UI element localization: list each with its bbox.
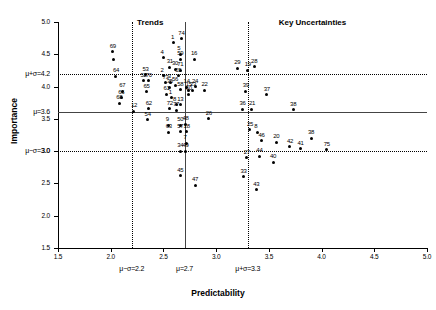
reference-line-label: μ−σ=2.2 (106, 265, 158, 272)
data-point (180, 37, 183, 40)
data-point-label: 49 (183, 142, 189, 148)
y-tick-mark (54, 119, 58, 120)
data-point-label: 35 (167, 78, 173, 84)
y-axis-title: Importance (9, 71, 19, 171)
data-point (244, 90, 247, 93)
data-point (207, 117, 210, 120)
data-point-label: 45 (177, 167, 183, 173)
x-tick-label: 4.5 (361, 253, 387, 260)
data-point (168, 107, 171, 110)
data-point-label: 55 (175, 67, 181, 73)
data-point (299, 147, 302, 150)
x-tick-mark (322, 248, 323, 252)
reference-line-label: μ=2.7 (159, 265, 211, 272)
data-point (145, 90, 148, 93)
data-point-label: 20 (273, 133, 279, 139)
data-point-label: 19 (245, 61, 251, 67)
data-point (241, 108, 244, 111)
data-point (179, 58, 182, 61)
data-point-label: 62 (146, 100, 152, 106)
data-point-label: 37 (264, 86, 270, 92)
y-tick-mark (54, 87, 58, 88)
data-point-label: 58 (177, 81, 183, 87)
data-point (179, 130, 182, 133)
data-point (310, 137, 313, 140)
data-point-label: 36 (240, 100, 246, 106)
data-point-label: 72 (167, 100, 173, 106)
y-tick-label: 4.0 (28, 83, 50, 90)
data-point-label: 39 (243, 82, 249, 88)
data-point-label: 57 (177, 123, 183, 129)
data-point (265, 93, 268, 96)
data-point-label: 29 (234, 59, 240, 65)
reference-line (58, 151, 427, 152)
data-point-label: 1 (171, 34, 174, 40)
y-tick-mark (54, 54, 58, 55)
x-tick-label: 3.0 (203, 253, 229, 260)
data-point (292, 108, 295, 111)
data-point (255, 188, 258, 191)
data-point (114, 75, 117, 78)
data-point (168, 66, 171, 69)
data-point-label: 27 (244, 149, 250, 155)
reference-line-label: μ+σ=4.2 (0, 70, 50, 77)
x-tick-mark (163, 248, 164, 252)
data-point (162, 56, 165, 59)
data-point (179, 174, 182, 177)
data-point (179, 88, 182, 91)
y-tick-mark (54, 22, 58, 23)
reference-line (58, 74, 427, 75)
x-tick-mark (58, 248, 59, 252)
y-tick-label: 2.5 (28, 179, 50, 186)
reference-line (132, 22, 133, 248)
data-point-label: 16 (191, 50, 197, 56)
y-tick-label: 4.5 (28, 50, 50, 57)
x-tick-mark (269, 248, 270, 252)
data-point (146, 118, 149, 121)
data-point-label: 48 (183, 115, 189, 121)
data-point-label: 60 (186, 85, 192, 91)
data-point-label: 63 (166, 123, 172, 129)
data-point (111, 50, 114, 53)
data-point-label: 40 (270, 153, 276, 159)
x-tick-mark (216, 248, 217, 252)
data-point-label: 38 (308, 129, 314, 135)
data-point (193, 58, 196, 61)
data-point-label: 21 (249, 100, 255, 106)
x-tick-label: 2.5 (150, 253, 176, 260)
x-tick-label: 5.0 (414, 253, 436, 260)
data-point-label: 38 (290, 101, 296, 107)
data-point-label: 8 (254, 123, 257, 129)
data-point-label: 28 (251, 58, 257, 64)
reference-line-label: μ+σ=3.3 (222, 265, 274, 272)
data-point-label: 12 (131, 102, 137, 108)
y-tick-label: 5.0 (28, 18, 50, 25)
y-axis-line (58, 22, 59, 248)
quadrant-label-trends: Trends (137, 18, 163, 27)
scatter-chart: Trends Key Uncertainties 1.52.02.53.03.5… (0, 0, 436, 310)
x-tick-mark (111, 248, 112, 252)
data-point-label: 44 (256, 147, 262, 153)
data-point (275, 141, 278, 144)
data-point (179, 103, 182, 106)
data-point-label: 67 (119, 82, 125, 88)
data-point-label: 74 (178, 30, 184, 36)
data-point-label: 22 (202, 81, 208, 87)
quadrant-label-key-uncertainties: Key Uncertainties (279, 18, 347, 27)
data-point-label: 18 (184, 123, 190, 129)
data-point-label: 54 (145, 111, 151, 117)
data-point-label: 47 (192, 176, 198, 182)
x-tick-label: 1.5 (45, 253, 71, 260)
data-point-label: 70 (146, 72, 152, 78)
data-point-label: 7 (184, 134, 187, 140)
data-point (246, 69, 249, 72)
data-point-label: 4 (160, 49, 163, 55)
reference-line-label: μ=3.6 (0, 108, 50, 115)
data-point (187, 93, 190, 96)
data-point-label: 41 (297, 140, 303, 146)
data-point (248, 128, 251, 131)
data-point (175, 109, 178, 112)
data-point (194, 184, 197, 187)
x-tick-label: 3.5 (256, 253, 282, 260)
data-point-label: 1 (169, 89, 172, 95)
